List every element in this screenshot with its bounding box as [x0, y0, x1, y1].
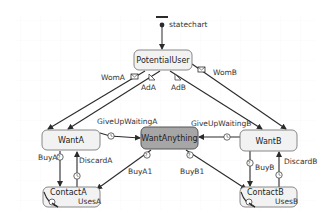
transition-label: AdB [171, 83, 186, 92]
state-label: PotentialUser [136, 56, 190, 65]
transition-label: WomB [213, 68, 237, 77]
svg-text:?: ? [248, 160, 251, 166]
state-contactb[interactable]: ContactB UsesB [240, 187, 298, 207]
transition-label: BuyB1 [180, 167, 204, 176]
transition-label: DiscardB [284, 157, 317, 166]
state-action-label: UsesA [78, 197, 102, 206]
entry-label: statechart [169, 20, 208, 29]
state-label: ContactA [50, 188, 87, 197]
transition-label: AdA [141, 83, 157, 92]
statechart-canvas: statechart WomA AdA AdB WomB GiveUpWaiti… [0, 0, 328, 223]
state-label: WantAnything [141, 134, 197, 143]
state-label: WantA [58, 136, 85, 145]
state-action-label: UsesB [275, 197, 298, 206]
transition-label: GiveUpWaitingB [191, 119, 252, 128]
state-wantb[interactable]: WantB [240, 130, 297, 151]
state-potentialuser[interactable]: PotentialUser [134, 50, 192, 70]
state-label: WantB [256, 137, 282, 146]
state-wantanything[interactable]: WantAnything [141, 127, 198, 149]
transition-label: BuyA [38, 153, 58, 162]
transition-label: BuyA1 [128, 167, 152, 176]
state-wanta[interactable]: WantA [42, 130, 100, 150]
transition-label: WomA [101, 73, 126, 82]
svg-text:?: ? [145, 152, 148, 158]
transition-label: GiveUpWaitingA [97, 117, 158, 126]
state-label: ContactB [247, 188, 284, 197]
transition-label: DiscardA [79, 156, 113, 165]
state-contacta[interactable]: ContactA UsesA [43, 187, 102, 207]
svg-text:?: ? [188, 152, 191, 158]
transition-label: BuyB [255, 163, 274, 172]
svg-text:?: ? [58, 154, 61, 160]
